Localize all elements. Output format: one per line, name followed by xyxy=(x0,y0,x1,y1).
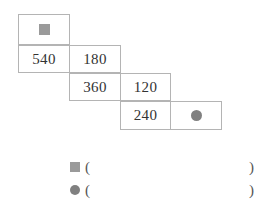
square-icon xyxy=(39,24,50,35)
circle-glyph xyxy=(70,185,80,195)
answer-blank-circle[interactable] xyxy=(94,183,246,197)
circle-icon xyxy=(191,110,202,121)
staircase-grid: 540 180 360 120 240 xyxy=(0,0,276,145)
open-paren-circle: ( xyxy=(85,183,90,198)
square-glyph xyxy=(70,162,80,172)
close-paren-square: ) xyxy=(249,160,254,175)
answer-blank-square[interactable] xyxy=(94,160,246,174)
square-icon-legend xyxy=(69,161,81,173)
grid-cell-r3c2[interactable]: 360 xyxy=(69,73,121,101)
legend-row-circle: ( ) xyxy=(0,180,276,200)
legend-row-square: ( ) xyxy=(0,157,276,177)
grid-cell-r4c3[interactable]: 240 xyxy=(120,101,171,130)
grid-cell-r2c1[interactable]: 540 xyxy=(18,45,70,73)
close-paren-circle: ) xyxy=(249,183,254,198)
grid-cell-r1c1[interactable] xyxy=(18,14,70,45)
grid-cell-r2c2[interactable]: 180 xyxy=(69,45,121,73)
grid-cell-r4c4[interactable] xyxy=(170,101,222,130)
open-paren-square: ( xyxy=(85,160,90,175)
worksheet-root: 540 180 360 120 240 ( ) ( ) xyxy=(0,0,276,219)
grid-cell-r3c3[interactable]: 120 xyxy=(120,73,171,101)
circle-icon-legend xyxy=(69,184,81,196)
